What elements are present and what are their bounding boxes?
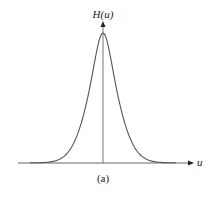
x-axis-label: u (197, 156, 203, 168)
y-axis-label: H(u) (92, 8, 114, 21)
figure-caption: (a) (97, 172, 110, 185)
y-axis-arrowhead (101, 21, 106, 27)
filter-diagram: H(u) u (a) (0, 0, 217, 198)
x-axis-arrowhead (188, 161, 194, 166)
